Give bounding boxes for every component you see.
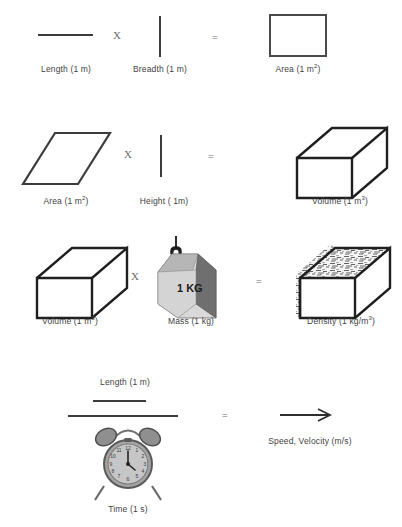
row-volume-mass-density: Volume (1 m3) X 1 KG Mass (1 kg) = [0, 228, 402, 333]
operator-equals-3: = [256, 276, 262, 287]
mass-label: Mass (1 kg) [141, 316, 241, 326]
weight-block-icon: 1 KG [152, 230, 230, 322]
vertical-line-shape-2 [160, 135, 162, 177]
svg-text:8: 8 [112, 468, 115, 474]
svg-text:5: 5 [136, 473, 139, 479]
vertical-line-shape [159, 16, 161, 57]
svg-text:3: 3 [144, 461, 147, 467]
parallelogram-shape [18, 122, 128, 192]
area-label-2: Area (1 m2) [12, 196, 120, 206]
alarm-clock-icon: 1212 345 678 91011 [88, 420, 168, 500]
operator-equals-2: = [208, 151, 214, 162]
area-label-tail: ) [318, 64, 321, 74]
row-length-over-time-speed: Length (1 m) 1212 345 678 91011 Time (1 … [0, 372, 402, 527]
svg-text:1: 1 [136, 447, 139, 453]
speed-label: Speed, Velocity (m/s) [250, 436, 370, 446]
volume-label-2: Volume (1 m3) [18, 316, 122, 326]
wireframe-box-shape [285, 114, 395, 200]
fraction-bar [68, 415, 178, 417]
row-length-breadth-area: Length (1 m) X Breadth (1 m) = Area (1 m… [0, 0, 402, 90]
density-label: Density (1 kg/m3) [282, 316, 400, 326]
operator-equals-4: = [222, 410, 228, 421]
density-label-tail: ) [372, 316, 375, 326]
figure-canvas: Length (1 m) X Breadth (1 m) = Area (1 m… [0, 0, 402, 527]
volume-label-text: Volume (1 m [312, 196, 361, 206]
operator-multiply-3: X [131, 270, 139, 282]
area-label-2-tail: ) [86, 196, 89, 206]
length-numerator-label: Length (1 m) [70, 377, 180, 387]
svg-text:10: 10 [110, 453, 116, 459]
area-label: Area (1 m2) [250, 64, 346, 74]
svg-text:9: 9 [110, 461, 113, 467]
area-label-2-text: Area (1 m [43, 196, 82, 206]
density-label-text: Density (1 kg/m [307, 316, 368, 326]
svg-text:12: 12 [125, 445, 131, 451]
operator-multiply-1: X [113, 29, 121, 41]
breadth-label: Breadth (1 m) [118, 64, 202, 74]
horizontal-line-shape [38, 34, 93, 36]
horizontal-line-shape-2 [93, 400, 146, 402]
area-label-text: Area (1 m [275, 64, 314, 74]
right-arrow-shape [278, 406, 338, 426]
time-label: Time (1 s) [83, 504, 173, 514]
weight-block-label: 1 KG [177, 282, 203, 294]
svg-text:4: 4 [142, 468, 145, 474]
svg-text:6: 6 [127, 476, 130, 482]
svg-text:2: 2 [142, 453, 145, 459]
operator-equals-1: = [212, 32, 218, 43]
height-label: Height ( 1m) [122, 196, 206, 206]
volume-label-2-text: Volume (1 m [42, 316, 91, 326]
volume-label: Volume (1 m3) [288, 196, 392, 206]
wireframe-box-shape-2 [25, 234, 135, 320]
svg-text:7: 7 [118, 473, 121, 479]
svg-text:11: 11 [116, 447, 121, 453]
operator-multiply-2: X [124, 148, 132, 160]
textured-box-shape [288, 234, 398, 322]
volume-label-2-tail: ) [95, 316, 98, 326]
row-area-height-volume: Area (1 m2) X Height ( 1m) = Volume (1 m… [0, 110, 402, 210]
volume-label-tail: ) [365, 196, 368, 206]
length-label: Length (1 m) [6, 64, 126, 74]
rectangle-shape [269, 14, 327, 57]
